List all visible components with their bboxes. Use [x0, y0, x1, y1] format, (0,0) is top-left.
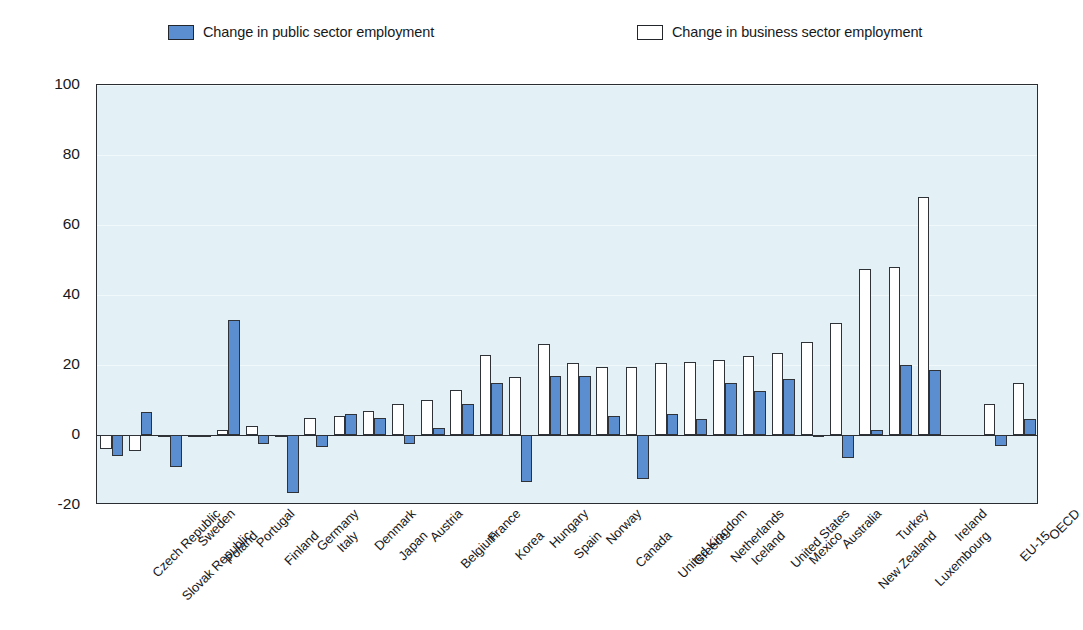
bar-public — [995, 435, 1007, 446]
bar-public — [579, 376, 591, 436]
y-axis-tick-label: 20 — [63, 355, 80, 373]
bar-business — [918, 197, 930, 435]
bar-business — [480, 355, 492, 436]
bar-public — [404, 435, 416, 444]
bar-public — [667, 414, 679, 435]
bar-business — [889, 267, 901, 435]
y-axis-tick-label: 40 — [63, 285, 80, 303]
bar-public — [462, 404, 474, 436]
bar-business — [1013, 383, 1025, 436]
bar-business — [421, 400, 433, 435]
bar-business — [538, 344, 550, 435]
bar-business — [509, 377, 521, 435]
bar-business — [188, 435, 200, 437]
bar-public — [783, 379, 795, 435]
bar-business — [859, 269, 871, 435]
bar-public — [608, 416, 620, 435]
bar-public — [696, 419, 708, 435]
bar-public — [813, 435, 825, 437]
filled-square-icon — [168, 25, 194, 40]
bar-public — [550, 376, 562, 436]
bar-business — [246, 426, 258, 435]
gridline — [97, 225, 1037, 226]
bar-business — [334, 416, 346, 435]
x-axis-tick-label: Norway — [603, 506, 644, 547]
bar-business — [772, 353, 784, 435]
gridline — [97, 155, 1037, 156]
bar-business — [217, 430, 229, 435]
gridline — [97, 85, 1037, 86]
y-axis-tick-label: 0 — [71, 425, 80, 443]
bar-business — [684, 362, 696, 436]
bar-business — [363, 411, 375, 436]
legend-entry-business-sector: Change in business sector employment — [637, 24, 922, 40]
bar-business — [129, 435, 141, 451]
bar-public — [199, 435, 211, 437]
bar-business — [275, 435, 287, 437]
bar-public — [287, 435, 299, 493]
bar-public — [754, 391, 766, 435]
bar-public — [1024, 419, 1036, 435]
bar-business — [596, 367, 608, 435]
y-axis: -20020406080100 — [0, 84, 88, 504]
bar-public — [929, 370, 941, 435]
y-axis-tick-label: 100 — [54, 75, 80, 93]
bar-public — [491, 383, 503, 436]
y-axis-tick-label: 60 — [63, 215, 80, 233]
plot-area — [96, 84, 1038, 504]
bar-business — [713, 360, 725, 435]
legend-label-business-sector: Change in business sector employment — [672, 24, 922, 40]
bar-public — [374, 418, 386, 436]
bar-business — [158, 435, 170, 437]
bar-public — [112, 435, 124, 456]
bar-business — [100, 435, 112, 449]
bar-public — [521, 435, 533, 482]
bar-business — [801, 342, 813, 435]
bar-public — [316, 435, 328, 447]
zero-baseline — [97, 435, 1037, 436]
hollow-square-icon — [637, 25, 663, 40]
bar-public — [258, 435, 270, 444]
bar-business — [830, 323, 842, 435]
bar-public — [228, 320, 240, 436]
bar-public — [345, 414, 357, 435]
x-axis-tick-label: Portugal — [253, 506, 297, 550]
bar-business — [567, 363, 579, 435]
x-axis-tick-label: France — [485, 506, 524, 545]
bar-public — [725, 383, 737, 436]
legend-label-public-sector: Change in public sector employment — [203, 24, 434, 40]
bar-business — [655, 363, 667, 435]
x-axis-tick-label: Canada — [632, 528, 674, 570]
bar-public — [433, 428, 445, 435]
bar-public — [637, 435, 649, 479]
bar-public — [900, 365, 912, 435]
x-axis-tick-label: Spain — [570, 528, 604, 562]
plot-inner — [97, 85, 1037, 503]
bar-public — [170, 435, 182, 467]
chart-legend: Change in public sector employment Chang… — [0, 22, 1076, 58]
bar-public — [141, 412, 153, 435]
bar-business — [392, 404, 404, 436]
bar-business — [984, 404, 996, 436]
bar-public — [871, 430, 883, 435]
x-axis-tick-label: Austria — [426, 506, 465, 545]
bar-business — [304, 418, 316, 436]
x-axis-tick-label: Korea — [512, 528, 547, 563]
x-axis-labels: Czech RepublicSlovak RepublicSwedenPolan… — [0, 504, 1076, 630]
bar-business — [743, 356, 755, 435]
bar-business — [626, 367, 638, 435]
y-axis-tick-label: 80 — [63, 145, 80, 163]
bar-public — [842, 435, 854, 458]
x-axis-tick-label: OECD — [1046, 506, 1083, 543]
x-axis-tick-label: Finland — [281, 528, 321, 568]
bar-business — [450, 390, 462, 436]
legend-entry-public-sector: Change in public sector employment — [168, 24, 434, 40]
